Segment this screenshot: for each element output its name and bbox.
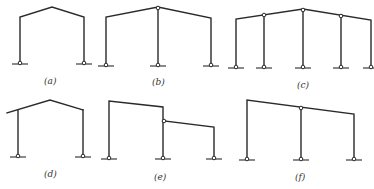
internal-hinge	[339, 14, 343, 18]
frame-b: (b)	[98, 6, 219, 87]
frame-e: (e)	[101, 101, 222, 182]
frame-a-members	[20, 7, 84, 63]
pinned-support	[363, 65, 374, 69]
internal-hinge	[299, 106, 303, 110]
internal-hinge	[301, 8, 305, 12]
pinned-support	[150, 63, 166, 67]
frame-e-low-bay	[164, 121, 214, 158]
caption-a: (a)	[44, 76, 57, 86]
internal-hinge	[162, 119, 166, 123]
pinned-support	[206, 156, 222, 160]
caption-c: (c)	[297, 80, 310, 90]
frame-a: (a)	[12, 7, 92, 86]
caption-e: (e)	[154, 172, 167, 182]
pinned-support	[295, 65, 311, 69]
frame-d: (d)	[7, 100, 91, 179]
pinned-support	[256, 65, 272, 69]
pinned-support	[12, 61, 28, 65]
pinned-support	[75, 154, 91, 158]
pinned-support	[228, 65, 244, 69]
pinned-support	[155, 156, 171, 160]
pinned-support	[293, 157, 309, 161]
internal-hinge	[156, 6, 160, 10]
pinned-support	[10, 154, 26, 158]
pinned-support	[76, 61, 92, 65]
frame-e-high-bay	[109, 101, 163, 158]
caption-b: (b)	[152, 77, 165, 87]
frame-c: (c)	[228, 8, 374, 90]
pinned-support	[346, 157, 362, 161]
pinned-support	[98, 63, 114, 67]
pinned-support	[333, 65, 349, 69]
caption-d: (d)	[44, 169, 57, 179]
portal-frames-diagram: (a) (b)	[0, 0, 374, 189]
pinned-support	[239, 157, 255, 161]
pinned-support	[203, 63, 219, 67]
internal-hinge	[262, 13, 266, 17]
caption-f: (f)	[295, 172, 306, 182]
frame-f: (f)	[239, 100, 362, 182]
pinned-support	[101, 156, 117, 160]
